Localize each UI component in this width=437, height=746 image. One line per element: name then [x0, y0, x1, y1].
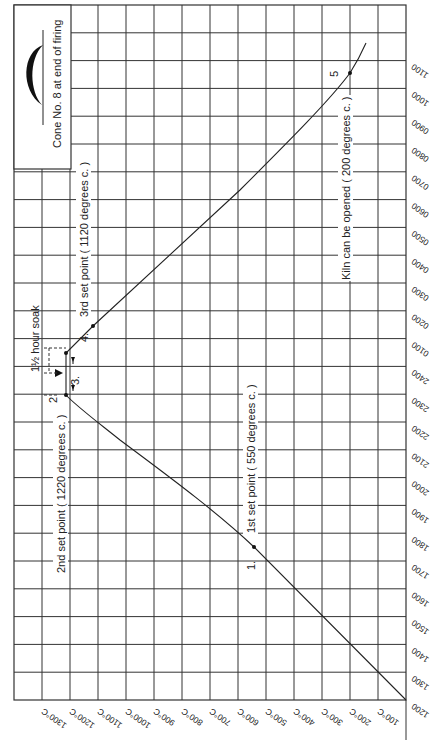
temperature-tick-label: 200°C: [347, 706, 372, 728]
temperature-tick-label: 100°C: [375, 706, 400, 728]
marker-2-label: 2: [47, 397, 59, 403]
marker-1-label: 1.: [245, 561, 257, 570]
time-tick-label: 0100: [409, 340, 430, 359]
marker-5: [348, 71, 352, 75]
time-tick-label: 1700: [409, 562, 430, 581]
time-tick-label: 1000: [409, 90, 430, 109]
open-label: Kiln can be opened ( 200 degrees c. ): [340, 97, 352, 280]
time-tick-label: 2300: [409, 395, 430, 414]
time-tick-label: 0200: [409, 312, 430, 331]
temperature-tick-label: 900°C: [151, 706, 176, 728]
time-tick-label: 0300: [409, 284, 430, 303]
time-tick-label: 0500: [409, 229, 430, 248]
cone-label: Cone No. 8 at end of firing: [51, 20, 63, 148]
marker-4: [91, 324, 95, 328]
time-tick-label: 1300: [409, 673, 430, 692]
time-tick-label: 1400: [409, 646, 430, 665]
temperature-tick-label: 1000°C: [123, 706, 152, 731]
temperature-tick-label: 700°C: [207, 706, 232, 728]
marker-3-label: 3.: [69, 376, 81, 385]
sp3-label: 3rd set point ( 1120 degrees c. ): [78, 162, 90, 317]
temperature-tick-label: 400°C: [291, 706, 316, 728]
time-tick-label: 1900: [409, 507, 430, 526]
sp2-label: 2nd set point ( 1220 degrees c. ): [55, 415, 67, 573]
time-tick-label: 1100: [409, 62, 430, 81]
time-tick-label: 2200: [409, 423, 430, 442]
marker-5-label: 5: [328, 71, 340, 77]
time-tick-label: 1800: [409, 534, 430, 553]
firing-curve: [66, 43, 406, 700]
time-tick-label: 2100: [409, 451, 430, 470]
time-tick-label: 1200: [409, 701, 430, 720]
soak-label: 1½ hour soak: [29, 305, 41, 372]
sp1-label: 1st set point ( 550 degrees c. ): [245, 384, 257, 533]
marker-2: [64, 393, 68, 397]
temperature-tick-label: 800°C: [179, 706, 204, 728]
time-tick-label: 0700: [409, 173, 430, 192]
marker-1: [252, 545, 256, 549]
time-tick-label: 2400: [409, 368, 430, 387]
time-tick-label: 0600: [409, 201, 430, 220]
temperature-tick-label: 300°C: [319, 706, 344, 728]
time-tick-label: 0400: [409, 256, 430, 275]
time-tick-label: 2000: [409, 479, 430, 498]
marker-3: [64, 351, 68, 355]
time-axis: 1200130014001500160017001800190020002100…: [409, 62, 430, 721]
temperature-tick-label: 1200°C: [67, 706, 96, 731]
marker-4-label: 4.: [78, 333, 90, 342]
firing-chart: Cone No. 8 at end of firing 120013001400…: [0, 0, 437, 746]
temperature-tick-label: 500°C: [263, 706, 288, 728]
time-tick-label: 0800: [409, 145, 430, 164]
time-tick-label: 1600: [409, 590, 430, 609]
time-tick-label: 1500: [409, 618, 430, 637]
temperature-tick-label: 600°C: [235, 706, 260, 728]
temperature-axis: 100°C200°C300°C400°C500°C600°C700°C800°C…: [39, 706, 400, 731]
time-tick-label: 0900: [409, 117, 430, 136]
temperature-tick-label: 1300°C: [39, 706, 68, 731]
temperature-tick-label: 1100°C: [95, 706, 124, 730]
